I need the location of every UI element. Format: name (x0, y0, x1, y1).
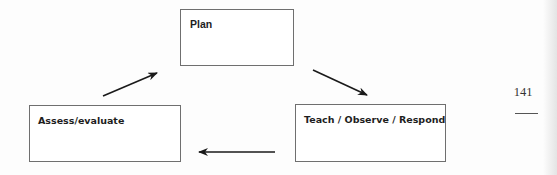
arrows-layer (0, 0, 557, 175)
arrow-plan-to-teach (313, 70, 367, 95)
page-number-rule (515, 113, 538, 114)
page-number: 141 (508, 85, 538, 100)
arrow-assess-to-plan (103, 73, 157, 96)
